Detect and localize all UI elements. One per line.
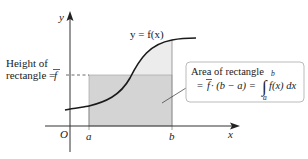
- tick-a-label: a: [86, 130, 92, 142]
- origin-label: O: [60, 128, 68, 140]
- integrand: f(x) dx: [269, 80, 296, 92]
- integral-lower: a: [263, 93, 267, 102]
- area-box-line1: Area of rectangle: [191, 66, 264, 77]
- mean-value-rectangle: [89, 75, 172, 126]
- height-label-line2: rectangle =: [6, 69, 55, 81]
- diagram-canvas: y x O a b y = f(x) Height of rectangle =…: [0, 0, 308, 159]
- integral-upper: b: [271, 69, 275, 78]
- curve-label: y = f(x): [130, 28, 164, 41]
- x-axis-label: x: [227, 128, 233, 140]
- height-label-line1: Height of: [6, 57, 48, 69]
- height-label-fbar: f: [54, 69, 59, 81]
- area-box-eq-prefix: =: [197, 80, 203, 91]
- tick-b-label: b: [169, 130, 175, 142]
- area-box-eq-mid: · (b − a) =: [211, 80, 256, 92]
- y-axis-label: y: [58, 11, 64, 23]
